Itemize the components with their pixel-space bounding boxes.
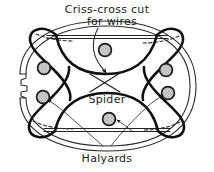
grommet-left-lower (37, 91, 50, 104)
grommet-right-lower (162, 87, 175, 100)
dashed-edge-bottom-left (33, 121, 73, 129)
rigging-diagram: Criss-cross cut for wires Spider Halyard… (0, 0, 214, 172)
grommet-right-upper (160, 64, 173, 77)
criss-cross-cut (90, 73, 120, 92)
figure-canvas: Criss-cross cut for wires Spider Halyard… (0, 0, 214, 172)
label-criss-cross-line2: for wires (87, 15, 137, 28)
grommet-left-upper (38, 62, 51, 75)
grommet-group (37, 44, 175, 126)
hook-notch (20, 74, 27, 98)
grommet-bottom-center (103, 113, 116, 126)
label-spider: Spider (88, 93, 125, 106)
grommet-top-center (99, 44, 112, 57)
spider-arm-lower-right (144, 67, 184, 137)
label-halyards: Halyards (82, 152, 133, 165)
